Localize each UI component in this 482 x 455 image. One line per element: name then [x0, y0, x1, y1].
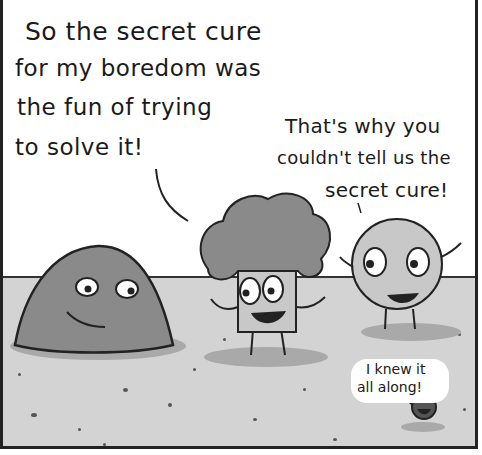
- blob-speech-line-3: the fun of trying: [17, 96, 212, 119]
- round-speech-line-3: secret cure!: [325, 180, 448, 200]
- pebble-speech-line-1: I knew it: [366, 362, 425, 376]
- blob-speech-line-1: So the secret cure: [25, 19, 262, 44]
- round-speech-line-1: That's why you: [285, 116, 440, 136]
- blob-speech-line-4: to solve it!: [15, 136, 144, 159]
- blob-speech-line-2: for my boredom was: [15, 57, 261, 80]
- round-speech-line-2: couldn't tell us the: [277, 149, 451, 167]
- blob-character: [15, 246, 173, 353]
- pebble-speech-line-2: all along!: [357, 380, 422, 394]
- comic-panel: So the secret cure for my boredom was th…: [0, 0, 478, 449]
